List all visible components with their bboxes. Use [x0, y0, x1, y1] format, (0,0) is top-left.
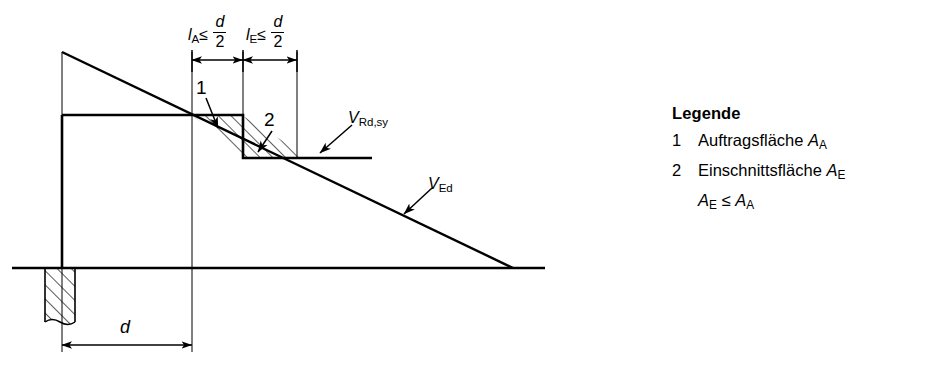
construction-lines: [62, 52, 297, 352]
legend-note-right-symbol: A: [735, 191, 746, 209]
top-dimension-lines: [192, 50, 297, 72]
dimension-label-d: d: [120, 318, 130, 336]
vrdsy-label: VRd,sy: [348, 110, 388, 129]
legend-item-2: 2 Einschnittsfläche AE: [672, 161, 922, 183]
dimension-la-fraction: d 2: [213, 14, 226, 51]
ved-action-curve: [62, 52, 513, 268]
legend-area-relation: AE ≤ AA: [698, 191, 922, 213]
legend-note-left-symbol: A: [698, 191, 709, 209]
region-2-einschnittsflaeche: [236, 110, 321, 170]
legend-item-2-subscript: E: [837, 168, 845, 182]
legend-item-1-text: Auftragsfläche AA: [698, 131, 827, 153]
region-2-label: 2: [264, 110, 275, 129]
legend: Legende 1 Auftragsfläche AA 2 Einschnitt…: [672, 104, 922, 213]
legend-item-1-name: Auftragsfläche: [698, 131, 803, 149]
legend-item-1-subscript: A: [819, 138, 827, 152]
legend-item-1: 1 Auftragsfläche AA: [672, 131, 922, 153]
legend-item-2-key: 2: [672, 161, 698, 180]
dimension-le-relation: ≤: [257, 26, 266, 43]
region-1-label: 1: [196, 78, 207, 97]
ved-subscript: Ed: [439, 182, 453, 194]
figure-page: lA≤ d 2 lE≤ d 2 d 1 2 VRd,sy VEd Legende…: [0, 0, 927, 385]
dimension-la-relation: ≤: [199, 26, 208, 43]
legend-item-2-symbol: A: [826, 161, 837, 179]
dimension-la-denominator: 2: [213, 34, 226, 51]
dimension-label-la: lA≤ d 2: [188, 14, 227, 51]
legend-item-1-key: 1: [672, 131, 698, 150]
vrdsy-leader-line: [320, 125, 352, 153]
ved-label: VEd: [428, 176, 453, 195]
legend-item-2-text: Einschnittsfläche AE: [698, 161, 845, 183]
ved-symbol: V: [428, 175, 439, 192]
dimension-label-le: lE≤ d 2: [246, 14, 285, 51]
dimension-la-numerator: d: [213, 14, 226, 31]
dimension-le-numerator: d: [271, 14, 284, 31]
vrdsy-symbol: V: [348, 109, 359, 126]
vrdsy-subscript: Rd,sy: [359, 116, 388, 128]
dimension-le-fraction: d 2: [271, 14, 284, 51]
legend-title: Legende: [672, 104, 922, 122]
legend-note-left-subscript: E: [709, 198, 717, 212]
legend-item-1-symbol: A: [808, 131, 819, 149]
legend-note-relation: ≤: [722, 191, 731, 209]
legend-item-2-name: Einschnittsfläche: [698, 161, 822, 179]
dimension-le-denominator: 2: [271, 34, 284, 51]
vrdsy-resistance-curve: [62, 115, 372, 268]
legend-note-right-subscript: A: [746, 198, 754, 212]
